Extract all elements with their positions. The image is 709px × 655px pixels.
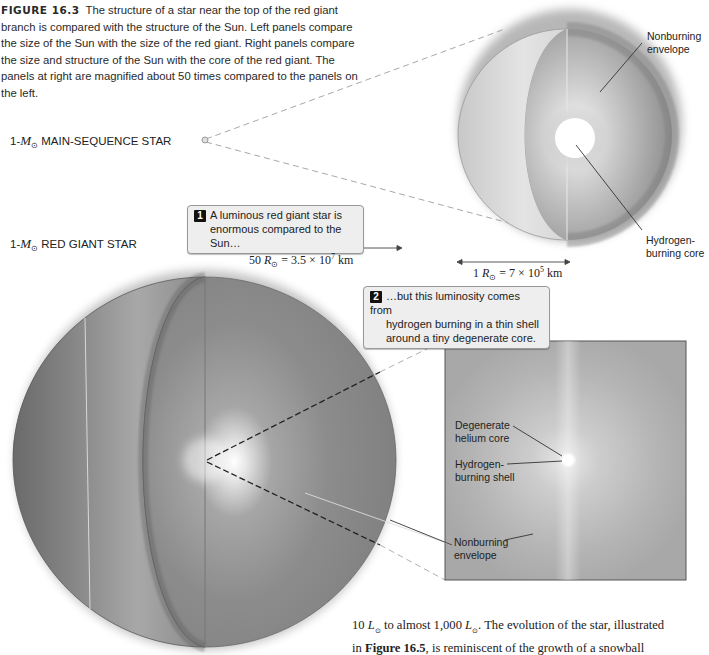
mass-symbol: M	[20, 133, 31, 148]
luminosity-symbol: L	[368, 618, 375, 632]
annotation-line: envelope	[454, 549, 508, 562]
label-text: RED GIANT STAR	[38, 238, 137, 250]
step-number-badge: 1	[194, 210, 206, 222]
tiny-sun-icon	[202, 137, 208, 143]
step-number-badge: 2	[370, 291, 382, 303]
body-line-1: 10 L⊙ to almost 1,000 L⊙. The evolution …	[352, 617, 664, 640]
figure-caption: FIGURE 16.3 The structure of a star near…	[1, 2, 361, 101]
main-sequence-label: 1-M⊙ MAIN-SEQUENCE STAR	[10, 133, 171, 150]
scale-value: = 7 × 10	[496, 266, 540, 280]
red-giant-scale: 50 R⊙ = 3.5 × 107 km	[249, 252, 353, 269]
callout-1: 1A luminous red giant star is enormous c…	[187, 205, 364, 254]
label-prefix: 1-	[10, 135, 20, 147]
callout-line: hydrogen burning in a thin shell	[370, 317, 543, 331]
annotation-line: envelope	[647, 43, 701, 56]
callout-2: 2…but this luminosity comes from hydroge…	[363, 286, 550, 349]
giant-shell-annotation: Hydrogen- burning shell	[455, 458, 515, 484]
red-giant-cutaway	[13, 270, 396, 650]
sun-envelope-annotation: Nonburning envelope	[647, 30, 701, 56]
callout-line: A luminous red giant star is	[210, 209, 342, 221]
scale-prefix: 1	[473, 266, 482, 280]
scale-value: = 3.5 × 10	[278, 253, 331, 267]
mass-symbol: M	[20, 236, 31, 251]
annotation-line: Hydrogen-	[455, 458, 515, 471]
callout-line: enormous compared to the Sun…	[194, 222, 357, 250]
caption-text: The structure of a star near the top of …	[1, 4, 358, 99]
callout-line: …but this luminosity comes from	[370, 290, 520, 316]
scale-unit: km	[335, 253, 353, 267]
sun-core-annotation: Hydrogen- burning core	[646, 234, 704, 260]
callout-line: around a tiny degenerate core.	[370, 331, 543, 345]
sun-scale: 1 R⊙ = 7 × 105 km	[473, 265, 562, 282]
figure-number: FIGURE 16.3	[1, 4, 80, 16]
text-run: 10	[352, 618, 368, 632]
annotation-line: helium core	[455, 432, 510, 445]
annotation-line: Degenerate	[455, 419, 510, 432]
annotation-line: burning shell	[455, 471, 515, 484]
scale-unit: km	[544, 266, 562, 280]
figure-reference-link[interactable]: Figure 16.5	[365, 641, 426, 655]
text-run: , is reminiscent of the growth of a snow…	[426, 641, 645, 655]
body-text: 10 L⊙ to almost 1,000 L⊙. The evolution …	[352, 617, 664, 655]
label-prefix: 1-	[10, 238, 20, 250]
red-giant-label: 1-M⊙ RED GIANT STAR	[10, 236, 137, 253]
body-line-2: in Figure 16.5, is reminiscent of the gr…	[352, 640, 664, 655]
label-text: MAIN-SEQUENCE STAR	[38, 135, 171, 147]
giant-envelope-annotation: Nonburning envelope	[454, 536, 508, 562]
annotation-line: Nonburning	[454, 536, 508, 549]
annotation-line: Hydrogen-	[646, 234, 704, 247]
giant-core-annotation: Degenerate helium core	[455, 419, 510, 445]
text-run: . The evolution of the star, illustrated	[478, 618, 664, 632]
scale-prefix: 50	[249, 253, 264, 267]
text-run: in	[352, 641, 365, 655]
annotation-line: Nonburning	[647, 30, 701, 43]
annotation-line: burning core	[646, 247, 704, 260]
text-run: to almost 1,000	[381, 618, 465, 632]
